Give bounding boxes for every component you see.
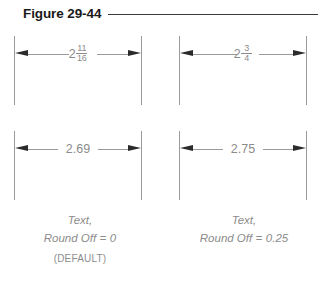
- dimension-group-bottom-right: 2.75: [179, 131, 309, 203]
- page-title: Figure 29-44: [23, 6, 101, 21]
- dimension-group-bottom-left: 2.69: [14, 131, 144, 203]
- drawing-area: 2 11 16 2 3 4: [0, 28, 324, 281]
- dimension-value-top-right: 2 3 4: [179, 36, 307, 72]
- title-divider-rule: [108, 14, 318, 15]
- fraction-denominator: 16: [77, 54, 86, 63]
- caption-left-value: 0: [110, 232, 116, 244]
- dimension-group-top-right: 2 3 4: [179, 36, 309, 108]
- caption-left-line2: Round Off = 0: [0, 229, 160, 247]
- dimension-whole-number: 2: [234, 48, 241, 61]
- fraction-denominator: 4: [244, 54, 249, 63]
- caption-left-label: Round Off: [44, 232, 96, 244]
- dimension-fraction: 3 4: [241, 44, 252, 64]
- caption-right-line2: Round Off = 0.25: [164, 229, 324, 247]
- caption-right-value: 0.25: [266, 232, 288, 244]
- dimension-group-top-left: 2 11 16: [14, 36, 144, 108]
- caption-left-line1: Text,: [0, 211, 160, 229]
- dimension-value-top-left: 2 11 16: [14, 36, 142, 72]
- caption-right: Text, Round Off = 0.25: [164, 211, 324, 247]
- dimension-decimal-value: 2.75: [231, 143, 255, 156]
- fraction-numerator: 3: [244, 44, 249, 53]
- dimension-value-bottom-left: 2.69: [14, 131, 142, 167]
- fraction-numerator: 11: [77, 44, 86, 53]
- caption-left-default-note: (DEFAULT): [0, 250, 160, 268]
- dimension-whole-number: 2: [69, 48, 76, 61]
- dimension-fraction: 11 16: [76, 44, 87, 64]
- figure-header: Figure 29-44: [0, 0, 324, 28]
- dimension-decimal-value: 2.69: [66, 143, 90, 156]
- caption-left-equals: =: [99, 232, 106, 244]
- caption-left: Text, Round Off = 0 (DEFAULT): [0, 211, 160, 268]
- caption-right-label: Round Off: [200, 232, 252, 244]
- dimension-value-bottom-right: 2.75: [179, 131, 307, 167]
- caption-right-equals: =: [255, 232, 262, 244]
- caption-right-line1: Text,: [164, 211, 324, 229]
